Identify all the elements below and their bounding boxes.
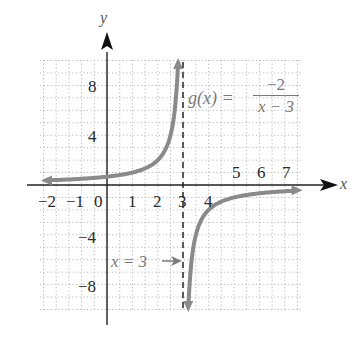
x-tick-label: 2 [153, 193, 162, 210]
function-label-lhs: g(x) = [188, 89, 234, 107]
function-fraction: −2 x − 3 [253, 76, 299, 115]
curve-arrow-left-icon [41, 176, 52, 186]
x-tick-label: −1 [66, 193, 84, 210]
x-axis-label: x [340, 176, 347, 192]
x-tick-label: 5 [232, 164, 241, 181]
x-tick-label: 1 [128, 193, 137, 210]
function-numerator: −2 [253, 76, 299, 93]
curve-arrow-up-icon [173, 58, 183, 69]
y-tick-label: 4 [88, 128, 97, 145]
x-tick-label: 6 [257, 164, 266, 181]
asymptote-label: x = 3 [111, 253, 147, 270]
fraction-bar [253, 95, 299, 96]
y-tick-label: −4 [78, 229, 96, 246]
y-axis-label: y [100, 10, 107, 26]
function-denominator: x − 3 [253, 98, 299, 115]
x-tick-label: −2 [38, 193, 56, 210]
y-tick-label: 8 [88, 78, 97, 95]
function-graph [0, 0, 364, 349]
x-tick-label: 4 [204, 193, 213, 210]
function-lhs-text: g(x) = [188, 88, 234, 108]
x-tick-label: 7 [282, 164, 291, 181]
curve-arrow-down-icon [183, 301, 193, 312]
x-tick-label: 3 [178, 193, 187, 210]
y-tick-label: −8 [78, 278, 96, 295]
curve-left-branch [47, 66, 178, 180]
y-axis-arrow-icon [101, 32, 113, 50]
x-tick-label: 0 [94, 193, 103, 210]
